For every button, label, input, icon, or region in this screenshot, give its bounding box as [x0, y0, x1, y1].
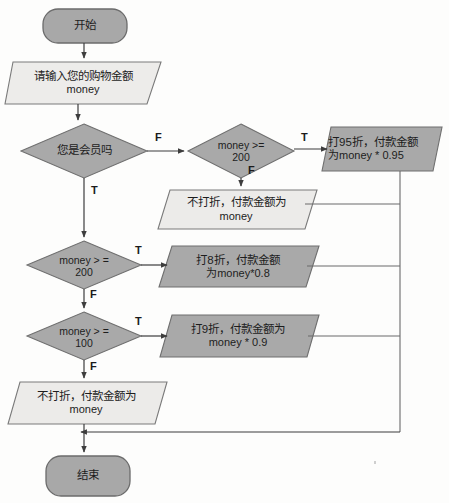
decide-member-200-shape — [188, 124, 294, 178]
decide-member-shape — [21, 124, 147, 178]
out-nodiscount-final-shape — [8, 382, 167, 424]
edge-label-member200-false: F — [248, 164, 255, 176]
out-95-shape — [322, 127, 442, 171]
edge-label-d100-true: T — [135, 315, 142, 327]
scan-speck — [374, 461, 376, 464]
edge-label-d200-true: T — [135, 244, 142, 256]
out-nodiscount-member-shape — [158, 190, 317, 229]
end-node-shape — [46, 456, 130, 496]
edge-label-d200-false: F — [90, 288, 97, 300]
start-node-shape — [43, 9, 127, 43]
decide-200-shape — [27, 241, 141, 289]
edge-label-member200-true: T — [301, 131, 308, 143]
edge-label-d100-false: F — [90, 360, 97, 372]
decide-100-shape — [27, 312, 141, 360]
out-80-shape — [159, 246, 319, 287]
flowchart-canvas: 开始 请输入您的购物金额 money 您是会员吗 money >= 200 打9… — [0, 0, 449, 503]
input-money-shape — [5, 62, 161, 104]
edge-label-member-true: T — [91, 184, 98, 196]
edge-label-member-false: F — [155, 131, 162, 143]
out-90-shape — [160, 315, 319, 357]
flowchart-connectors — [0, 0, 449, 503]
